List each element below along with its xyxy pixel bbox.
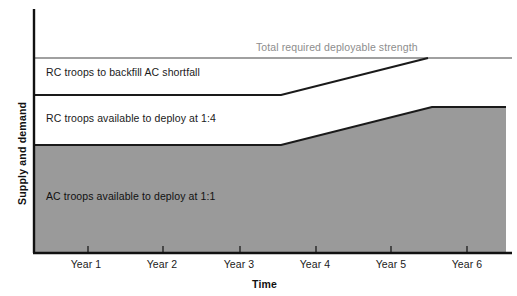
y-axis-title: Supply and demand	[16, 102, 28, 205]
x-tick-label-year-6: Year 6	[437, 258, 497, 270]
x-tick-label-year-4: Year 4	[285, 258, 345, 270]
annotation-total-required-strength: Total required deployable strength	[256, 41, 418, 53]
x-tick-label-year-5: Year 5	[361, 258, 421, 270]
annotation-ac-available: AC troops available to deploy at 1:1	[46, 190, 215, 202]
x-axis-title: Time	[252, 278, 277, 290]
x-tick-label-year-1: Year 1	[56, 258, 116, 270]
x-tick-label-year-2: Year 2	[132, 258, 192, 270]
annotation-rc-available: RC troops available to deploy at 1:4	[46, 112, 216, 124]
x-tick-label-year-3: Year 3	[209, 258, 269, 270]
annotation-rc-backfill: RC troops to backfill AC shortfall	[46, 66, 200, 78]
supply-demand-area-chart: Supply and demand Time Total required de…	[0, 0, 517, 296]
ac-troops-area-fill	[34, 107, 506, 253]
